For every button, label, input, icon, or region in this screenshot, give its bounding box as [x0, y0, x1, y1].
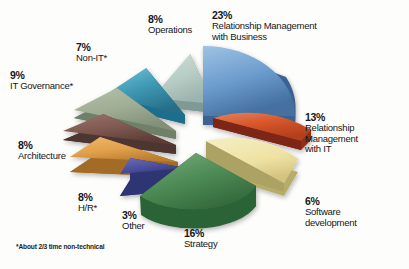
slice-name-hr: H/R* — [78, 203, 97, 213]
chart-footnote: *About 2/3 time non-technical — [16, 243, 104, 250]
slice-label-rm-it: 13% Relationship Management with IT — [305, 112, 358, 154]
slice-name-rm-it-line3: with IT — [305, 144, 358, 154]
slice-name-software-development-line2: development — [305, 218, 357, 228]
slice-label-architecture: 8% Architecture — [18, 140, 66, 162]
slice-label-non-it: 7% Non-IT* — [76, 42, 107, 64]
slice-label-rm-business: 23% Relationship Management with Busines… — [212, 10, 317, 42]
slice-label-hr: 8% H/R* — [78, 192, 97, 214]
slice-name-architecture: Architecture — [18, 151, 66, 161]
slice-name-strategy: Strategy — [184, 239, 217, 249]
slice-name-other: Other — [122, 221, 145, 231]
slice-name-operations: Operations — [148, 25, 192, 35]
slice-label-it-governance: 9% IT Governance* — [10, 70, 73, 92]
slice-label-software-development: 6% Software development — [305, 196, 357, 228]
slice-name-non-it: Non-IT* — [76, 53, 107, 63]
slice-name-rm-business-line2: with Business — [212, 32, 317, 42]
slice-label-other: 3% Other — [122, 210, 145, 232]
slice-label-operations: 8% Operations — [148, 14, 192, 36]
slice-name-it-governance: IT Governance* — [10, 81, 73, 91]
pie-chart-figure: 8% Operations 7% Non-IT* 9% IT Governanc… — [0, 0, 409, 269]
slice-label-strategy: 16% Strategy — [184, 228, 217, 250]
